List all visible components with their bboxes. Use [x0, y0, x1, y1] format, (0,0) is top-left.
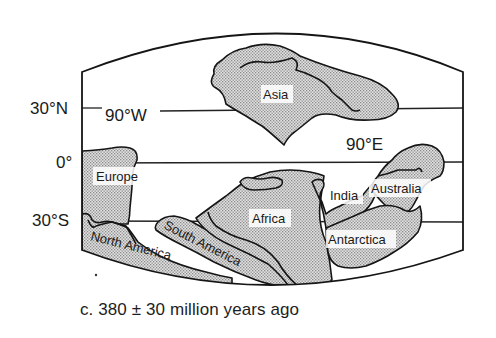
continent-asia [211, 44, 398, 145]
print-speck [95, 274, 97, 276]
label-asia: Asia [263, 87, 289, 102]
label-equator: 0° [56, 153, 72, 172]
figure-caption: c. 380 ± 30 million years ago [80, 300, 299, 320]
label-europe: Europe [96, 169, 138, 184]
paleogeographic-map: 30°N 0° 30°S 90°W 90°E Asia Europe Afric… [0, 0, 496, 338]
label-30s: 30°S [32, 211, 69, 230]
label-antarctica: Antarctica [328, 232, 387, 247]
label-90e: 90°E [346, 135, 383, 154]
label-30n: 30°N [30, 99, 68, 118]
label-india: India [330, 188, 359, 203]
label-australia: Australia [371, 181, 422, 196]
africa-north-lobe [240, 177, 282, 190]
continent-europe [82, 147, 137, 224]
label-africa: Africa [252, 211, 286, 226]
label-90w: 90°W [105, 106, 147, 125]
